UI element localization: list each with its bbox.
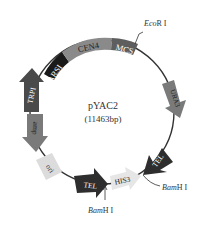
plasmid-size: (11463bp) — [84, 114, 121, 124]
ecori-pointer — [135, 32, 143, 44]
ecori-label: EcoR I — [143, 19, 167, 28]
plasmid-name: pYAC2 — [88, 100, 118, 111]
cen4-label: CEN4 — [77, 40, 101, 54]
bamhi-bottom-label: BamH I — [88, 206, 113, 215]
plasmid-map: ARSI CEN4 MCS TRPI amp ori TEL HIS3 TEL … — [0, 0, 204, 230]
ecori-italic: Eco — [143, 19, 156, 28]
bamhi-right-rest: H I — [177, 183, 188, 192]
bamhi-right-label: BamH I — [162, 183, 187, 192]
bamhi-right-italic: Bam — [162, 183, 177, 192]
bamhi-right-pointer — [143, 175, 160, 186]
ecori-rest: R I — [156, 19, 166, 28]
amp-label: amp — [30, 121, 40, 135]
bamhi-bottom-italic: Bam — [88, 206, 103, 215]
bamhi-bottom-rest: H I — [103, 206, 114, 215]
